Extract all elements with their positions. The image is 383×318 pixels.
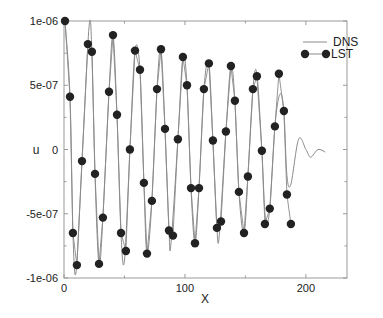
lst-data-point: [205, 59, 213, 67]
lst-data-point: [148, 197, 156, 205]
lst-data-point: [153, 85, 161, 93]
lst-data-point: [249, 85, 257, 93]
lst-data-point: [109, 31, 117, 39]
lst-data-point: [209, 136, 217, 144]
x-tick-label: 200: [297, 282, 315, 294]
lst-data-point: [95, 260, 103, 268]
x-tick-label: 100: [176, 282, 194, 294]
lst-data-point: [187, 184, 195, 192]
lst-data-point: [169, 231, 177, 239]
legend-lst-marker-icon: [322, 50, 330, 58]
axis-tick-labels: 01002001e-065e-070-5e-07-1e-06: [26, 15, 315, 294]
lst-data-point: [191, 239, 199, 247]
lst-data-point: [99, 213, 107, 221]
lst-data-point: [179, 53, 187, 61]
x-tick-label: 0: [61, 282, 67, 294]
lst-data-point: [266, 204, 274, 212]
lst-data-point: [195, 184, 203, 192]
lst-data-point: [275, 70, 283, 78]
lst-data-point: [222, 127, 230, 135]
y-tick-label: -5e-07: [26, 208, 58, 220]
lst-data-point: [136, 66, 144, 74]
y-tick-label: 5e-07: [30, 79, 58, 91]
lst-data-point: [157, 45, 165, 53]
lst-data-point: [280, 107, 288, 115]
lst-data-point: [140, 179, 148, 187]
lst-data-point: [283, 190, 291, 198]
lst-data-point: [88, 48, 96, 56]
lst-data-point: [78, 157, 86, 165]
lst-data-point: [261, 220, 269, 228]
lst-data-point: [73, 261, 81, 269]
legend-lst-marker-icon: [301, 50, 309, 58]
lst-data-point: [126, 145, 134, 153]
lst-data-point: [161, 125, 169, 133]
lst-data-point: [271, 122, 279, 130]
legend-lst-label: LST: [331, 47, 354, 61]
lst-data-point: [258, 147, 266, 155]
y-tick-label: -1e-06: [26, 272, 58, 284]
y-axis-label: u: [33, 143, 40, 157]
lst-data-point: [235, 188, 243, 196]
lst-data-point: [244, 172, 252, 180]
lst-data-point: [122, 247, 130, 255]
lst-data-point: [231, 97, 239, 105]
lst-data-point: [287, 220, 295, 228]
lst-data-point: [91, 170, 99, 178]
y-tick-label: 0: [52, 144, 58, 156]
lst-data-point: [69, 229, 77, 237]
lst-data-point: [61, 17, 69, 25]
y-tick-label: 1e-06: [30, 15, 58, 27]
x-axis-label: X: [201, 292, 209, 306]
lst-data-point: [143, 249, 151, 257]
lst-data-point: [66, 93, 74, 101]
lst-data-point: [105, 88, 113, 96]
legend: DNS LST: [301, 35, 359, 61]
line-chart: 01002001e-065e-070-5e-07-1e-06 X u DNS L…: [0, 0, 383, 318]
lst-data-point: [117, 229, 125, 237]
lst-series-markers: [61, 17, 295, 269]
lst-data-point: [113, 111, 121, 119]
lst-data-point: [131, 46, 139, 54]
lst-data-point: [217, 217, 225, 225]
lst-data-point: [174, 135, 182, 143]
lst-data-point: [227, 62, 235, 70]
lst-data-point: [253, 72, 261, 80]
lst-data-point: [240, 229, 248, 237]
lst-data-point: [183, 81, 191, 89]
lst-data-point: [200, 85, 208, 93]
lst-data-point: [84, 40, 92, 48]
